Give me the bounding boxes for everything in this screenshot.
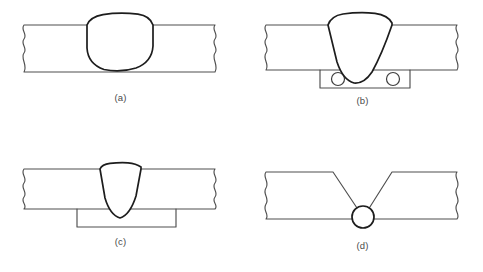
panel-b-drawing <box>242 0 483 136</box>
panel-b: (b) <box>242 0 483 136</box>
panel-c-caption: (c) <box>0 236 241 247</box>
panel-a-caption: (a) <box>0 92 241 103</box>
welding-cross-section-figure: (a) (b) <box>0 0 483 272</box>
panel-d-drawing <box>242 136 483 272</box>
panel-b-caption: (b) <box>242 95 483 106</box>
panel-d: (d) <box>242 136 483 272</box>
panel-d-caption: (d) <box>242 240 483 251</box>
weld-nugget-d <box>352 206 374 228</box>
weld-bead-a <box>87 13 153 71</box>
panel-c: (c) <box>0 136 241 272</box>
panel-a-drawing <box>0 0 241 136</box>
panel-c-drawing <box>0 136 241 272</box>
backing-strip-hole-right-b <box>387 73 400 86</box>
panel-a: (a) <box>0 0 241 136</box>
weld-bead-c <box>100 163 141 218</box>
